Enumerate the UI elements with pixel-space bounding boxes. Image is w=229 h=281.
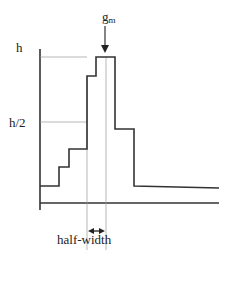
label-h: h	[16, 40, 23, 55]
label-g-m: gm	[102, 9, 116, 25]
peak-marker-arrow-head	[101, 45, 109, 53]
label-half-width: half-width	[57, 232, 112, 247]
label-h-half: h/2	[9, 115, 26, 130]
label-g-m-sub: m	[109, 15, 116, 25]
histogram-outline	[40, 57, 219, 188]
histogram-diagram: h h/2 gm half-width	[0, 0, 229, 281]
